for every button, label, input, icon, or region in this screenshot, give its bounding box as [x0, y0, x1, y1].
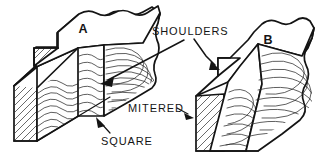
square-leader: [96, 117, 110, 133]
shoulder-types-figure: A: [0, 0, 328, 163]
block-a-square-shoulder-face: [78, 45, 104, 116]
mitered-label: MITERED: [128, 102, 184, 114]
square-label: SQUARE: [101, 135, 153, 147]
diagram-canvas: A: [0, 0, 328, 163]
mitered-leader: [177, 108, 194, 120]
shoulders-label: SHOULDERS: [152, 25, 229, 37]
shoulders-arrow-to-b: [194, 39, 220, 70]
block-b: B: [188, 18, 317, 163]
block-a-label: A: [78, 22, 87, 36]
block-b-label: B: [263, 33, 272, 47]
